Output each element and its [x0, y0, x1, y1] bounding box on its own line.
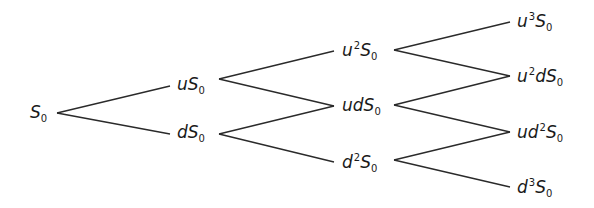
- node-factor: d: [535, 66, 546, 86]
- edge-n1d-n2dd: [219, 134, 334, 162]
- node-factor: ud: [342, 95, 364, 115]
- node-factor: d: [342, 152, 353, 172]
- edge-n1u-n2ud: [219, 79, 334, 106]
- node-subscript: 0: [371, 163, 377, 174]
- node-n3udd: ud2S0: [517, 123, 563, 144]
- edge-n0-n1d: [57, 113, 170, 134]
- node-n3uuu: u3S0: [517, 12, 552, 33]
- node-base: S: [360, 40, 371, 60]
- edge-n2ud-n3uud: [394, 76, 510, 105]
- node-base: S: [546, 66, 557, 86]
- node-subscript: 0: [374, 106, 380, 117]
- node-base: S: [364, 95, 375, 115]
- node-n2ud: udS0: [342, 97, 381, 117]
- node-n2dd: d2S0: [342, 153, 377, 174]
- node-factor: d: [517, 177, 528, 197]
- node-n1d: dS0: [177, 124, 205, 144]
- node-subscript: 0: [199, 133, 205, 144]
- node-base: S: [546, 122, 557, 142]
- node-base: S: [188, 74, 199, 94]
- edge-n1u-n2uu: [219, 51, 334, 79]
- edge-n2uu-n3uuu: [394, 22, 510, 50]
- edge-n2ud-n3udd: [394, 105, 510, 132]
- edge-n2uu-n3uud: [394, 50, 510, 76]
- node-factor: u: [342, 40, 353, 60]
- node-base: S: [360, 152, 371, 172]
- node-n3uud: u2dS0: [517, 67, 563, 88]
- node-n2uu: u2S0: [342, 41, 377, 62]
- edge-n1d-n2ud: [219, 106, 334, 134]
- node-subscript: 0: [557, 77, 563, 88]
- node-n0: S0: [30, 104, 47, 124]
- node-base: S: [188, 122, 199, 142]
- node-subscript: 0: [546, 188, 552, 199]
- node-subscript: 0: [371, 51, 377, 62]
- edge-n2dd-n3ddd: [394, 160, 510, 187]
- tree-edges: [0, 0, 594, 208]
- node-factor: d: [177, 122, 188, 142]
- node-subscript: 0: [41, 113, 47, 124]
- edge-n0-n1u: [57, 86, 170, 113]
- node-subscript: 0: [557, 133, 563, 144]
- node-n1u: uS0: [177, 76, 205, 96]
- node-factor: ud: [517, 122, 539, 142]
- node-subscript: 0: [546, 22, 552, 33]
- edge-n2dd-n3udd: [394, 132, 510, 160]
- node-base: S: [535, 177, 546, 197]
- node-factor: u: [177, 74, 188, 94]
- node-base: S: [535, 11, 546, 31]
- node-n3ddd: d3S0: [517, 178, 552, 199]
- node-factor: u: [517, 11, 528, 31]
- node-factor: u: [517, 66, 528, 86]
- node-subscript: 0: [199, 85, 205, 96]
- node-base: S: [30, 102, 41, 122]
